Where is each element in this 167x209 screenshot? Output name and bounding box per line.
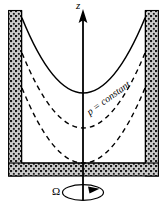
angular-velocity-label: Ω <box>52 186 60 197</box>
figure-canvas <box>0 0 167 209</box>
right-wall <box>145 11 158 177</box>
rotating-fluid-figure: z Ω p = constant <box>0 0 167 209</box>
z-axis-label: z <box>76 0 80 11</box>
left-wall <box>9 11 22 177</box>
